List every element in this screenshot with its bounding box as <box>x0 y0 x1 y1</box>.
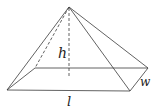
height-label: h <box>58 45 67 61</box>
length-label: l <box>67 94 71 109</box>
pyramid-diagram: h w l <box>0 0 158 111</box>
width-label: w <box>140 75 151 89</box>
base-front-edge <box>7 90 130 91</box>
lateral-edge-back-right <box>69 7 148 68</box>
lateral-edge-front-right <box>69 7 130 91</box>
